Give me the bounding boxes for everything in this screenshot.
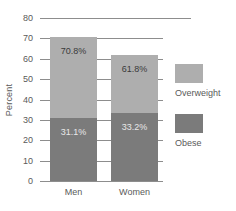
bar-women-obese-label: 33.2%: [111, 122, 158, 132]
y-tick-label-10: 10: [23, 156, 33, 166]
legend-swatch-overweight: [175, 64, 203, 83]
bar-men-segment-overweight[interactable]: 70.8%: [50, 37, 97, 118]
y-axis-title: Percent: [4, 65, 14, 135]
bar-men-obese-label: 31.1%: [50, 127, 97, 137]
x-axis-line: [45, 181, 163, 182]
plot-area: 80 70 60 50 40 30 20 10: [45, 18, 163, 181]
stacked-bar-chart: Percent 80 70 60 50 40 30 20: [0, 0, 236, 211]
legend-item-obese[interactable]: Obese: [175, 114, 221, 148]
tick-mark-70: 70: [40, 38, 45, 39]
legend-label-obese: Obese: [175, 138, 221, 148]
tick-mark-50: 50: [40, 79, 45, 80]
y-tick-label-70: 70: [23, 33, 33, 43]
y-tick-label-40: 40: [23, 95, 33, 105]
y-tick-label-50: 50: [23, 74, 33, 84]
y-tick-label-30: 30: [23, 115, 33, 125]
gridline-80: [45, 18, 191, 19]
x-category-label-women: Women: [111, 187, 158, 197]
bar-men[interactable]: 70.8% 31.1% Men: [50, 37, 97, 181]
bar-men-segment-obese[interactable]: 31.1%: [50, 118, 97, 181]
tick-mark-30: 30: [40, 120, 45, 121]
y-tick-label-80: 80: [23, 13, 33, 23]
legend-swatch-obese: [175, 114, 203, 133]
bar-women-segment-overweight[interactable]: 61.8%: [111, 55, 158, 113]
legend-label-overweight: Overweight: [175, 88, 221, 98]
bar-women-segment-obese[interactable]: 33.2%: [111, 113, 158, 181]
bar-women-total-label: 61.8%: [111, 64, 158, 74]
bar-men-total-label: 70.8%: [50, 46, 97, 56]
legend-item-overweight[interactable]: Overweight: [175, 64, 221, 98]
tick-mark-80: 80: [40, 18, 45, 19]
y-tick-label-60: 60: [23, 54, 33, 64]
tick-mark-10: 10: [40, 161, 45, 162]
y-tick-label-0: 0: [28, 176, 33, 186]
tick-mark-0: 0: [40, 181, 45, 182]
tick-mark-40: 40: [40, 100, 45, 101]
x-category-label-men: Men: [50, 187, 97, 197]
bar-women[interactable]: 61.8% 33.2% Women: [111, 55, 158, 181]
tick-mark-60: 60: [40, 59, 45, 60]
y-tick-label-20: 20: [23, 135, 33, 145]
tick-mark-20: 20: [40, 140, 45, 141]
chart-legend: Overweight Obese: [175, 64, 221, 164]
